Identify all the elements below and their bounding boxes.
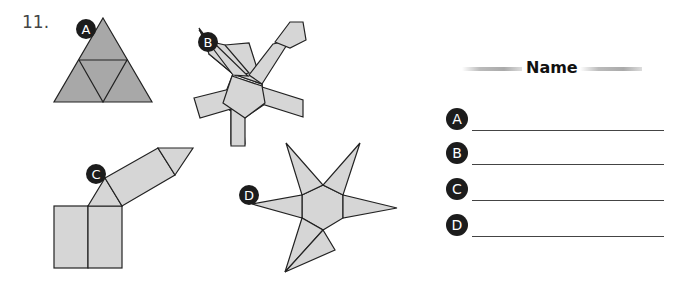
name-header: Name	[462, 58, 642, 78]
badge-d: D	[446, 214, 468, 236]
header-rule-right	[580, 67, 642, 71]
svg-text:D: D	[244, 188, 254, 203]
answer-line-b[interactable]	[472, 164, 664, 165]
badge-c: C	[446, 178, 468, 200]
figure-d-net	[252, 143, 397, 272]
svg-text:B: B	[204, 35, 213, 50]
answer-row-a: A	[446, 108, 664, 132]
svg-text:A: A	[82, 22, 91, 37]
header-rule-left	[462, 67, 522, 71]
net-figures: A B C D	[0, 0, 682, 282]
name-label: Name	[526, 58, 578, 77]
answer-row-c: C	[446, 178, 664, 202]
answer-line-d[interactable]	[472, 236, 664, 237]
answer-line-a[interactable]	[472, 130, 664, 131]
answer-row-d: D	[446, 214, 664, 238]
svg-text:C: C	[91, 167, 100, 182]
answer-line-c[interactable]	[472, 200, 664, 201]
answer-row-b: B	[446, 142, 664, 166]
figure-c-net	[54, 148, 193, 268]
figure-a-net	[54, 18, 152, 102]
badge-a: A	[446, 108, 468, 130]
badge-b: B	[446, 142, 468, 164]
